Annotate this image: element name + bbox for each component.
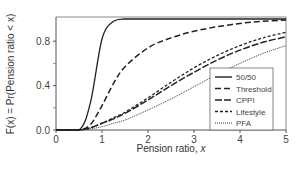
x-tick-label: 1 (99, 134, 105, 145)
y-axis-ticks: 0.00.40.8 (36, 36, 56, 136)
legend-label: Lifestyle (236, 108, 266, 117)
x-tick-label: 0 (53, 134, 59, 145)
legend: 50/50ThresholdCPPILifestylePFA (210, 68, 273, 130)
y-tick-label: 0.4 (36, 80, 50, 91)
x-axis-title: Pension ratio, x (137, 143, 207, 154)
y-tick-label: 0.0 (36, 125, 50, 136)
x-tick-label: 5 (283, 134, 289, 145)
y-tick-label: 0.8 (36, 36, 50, 47)
x-tick-label: 4 (237, 134, 243, 145)
legend-label: PFA (236, 119, 252, 128)
legend-label: CPPI (236, 96, 255, 105)
cdf-chart: 012345 0.00.40.8 Pension ratio, x F(x) =… (0, 0, 306, 169)
y-axis-title: F(x) = Pr(Pension ratio < x) (5, 14, 16, 135)
legend-label: 50/50 (236, 73, 257, 82)
legend-label: Threshold (236, 85, 272, 94)
